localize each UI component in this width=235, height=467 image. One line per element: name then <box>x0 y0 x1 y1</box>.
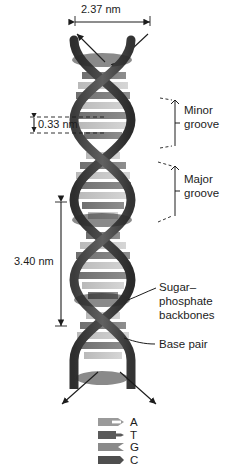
pitch-dimension-label: 3.40 nm <box>14 255 54 267</box>
rise-dimension-label: 0.33 nm <box>38 118 78 130</box>
legend-swatch-c <box>98 456 124 464</box>
legend-label-a: A <box>130 416 138 428</box>
major-groove-label-line2: groove <box>184 187 219 200</box>
major-groove-bracket <box>158 162 180 222</box>
minor-groove-label-line2: groove <box>184 118 219 131</box>
pitch-dimension-arrow <box>55 202 67 326</box>
dna-helix-illustration <box>0 0 235 467</box>
legend-label-t: T <box>130 429 137 441</box>
sugar-phosphate-label-line3: backbones <box>159 309 215 322</box>
legend-swatch-t <box>98 431 124 439</box>
minor-groove-bracket <box>160 98 180 148</box>
double-helix-body <box>72 40 132 392</box>
legend-swatch-a <box>98 418 124 426</box>
legend-item-g: G <box>98 441 158 454</box>
nucleotide-legend: A T G C <box>98 416 158 466</box>
width-dimension-arrow <box>75 16 150 26</box>
legend-item-t: T <box>98 429 158 442</box>
legend-item-a: A <box>98 416 158 429</box>
sugar-phosphate-label-line1: Sugar– <box>159 281 196 294</box>
base-pair-label: Base pair <box>159 338 208 351</box>
legend-label-g: G <box>130 441 139 453</box>
figure-canvas: 2.37 nm 0.33 nm 3.40 nm Minor groove Maj… <box>0 0 235 467</box>
legend-label-c: C <box>130 454 138 466</box>
major-groove-label-line1: Major <box>184 173 213 186</box>
legend-swatch-g <box>98 443 124 451</box>
minor-groove-label-line1: Minor <box>184 104 213 117</box>
legend-item-c: C <box>98 454 158 467</box>
sugar-phosphate-label-line2: phosphate <box>159 295 213 308</box>
width-dimension-label: 2.37 nm <box>81 3 121 15</box>
